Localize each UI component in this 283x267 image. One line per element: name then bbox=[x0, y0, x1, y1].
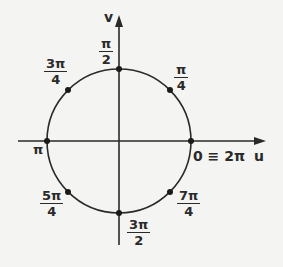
point-5pi-over-4 bbox=[65, 189, 71, 195]
point-pi bbox=[44, 138, 50, 144]
denominator: 4 bbox=[47, 204, 56, 218]
numerator: π bbox=[99, 37, 113, 52]
numerator: π bbox=[174, 63, 188, 78]
point-pi-over-2 bbox=[116, 66, 122, 72]
label-5pi-over-4: 5π 4 bbox=[40, 189, 63, 218]
denominator: 2 bbox=[102, 52, 111, 66]
label-0: 0 ≡ 2π bbox=[193, 149, 245, 163]
numerator: 3π bbox=[127, 218, 150, 233]
v-axis-label: v bbox=[104, 10, 113, 24]
numerator: 5π bbox=[40, 189, 63, 204]
label-pi: π bbox=[33, 143, 43, 156]
point-0 bbox=[188, 138, 194, 144]
u-axis-arrow-icon bbox=[254, 137, 266, 145]
point-3pi-over-4 bbox=[65, 87, 71, 93]
denominator: 4 bbox=[51, 72, 60, 86]
denominator: 2 bbox=[134, 233, 143, 247]
numerator: 7π bbox=[177, 189, 200, 204]
label-3pi-over-4: 3π 4 bbox=[44, 57, 67, 86]
v-axis-arrow-icon bbox=[115, 15, 123, 27]
point-7pi-over-4 bbox=[167, 189, 173, 195]
numerator: 3π bbox=[44, 57, 67, 72]
denominator: 4 bbox=[184, 204, 193, 218]
u-axis-label: u bbox=[254, 149, 264, 163]
denominator: 4 bbox=[177, 78, 186, 92]
label-pi-over-4: π 4 bbox=[174, 63, 188, 92]
label-7pi-over-4: 7π 4 bbox=[177, 189, 200, 218]
point-pi-over-4 bbox=[167, 87, 173, 93]
label-3pi-over-2: 3π 2 bbox=[127, 218, 150, 247]
label-pi-over-2: π 2 bbox=[99, 37, 113, 66]
point-3pi-over-2 bbox=[116, 210, 122, 216]
unit-circle-diagram: v u 0 ≡ 2π π 4 π 2 3π 4 π 5π 4 3π 2 7π 4 bbox=[0, 0, 283, 267]
